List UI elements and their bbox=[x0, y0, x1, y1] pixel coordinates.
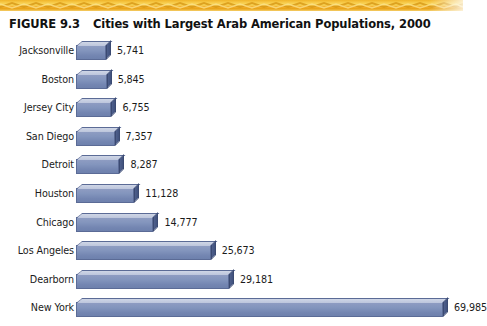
bar-chicago bbox=[76, 213, 153, 232]
bar-chart: Jacksonville5,741Boston5,845Jersey City6… bbox=[0, 36, 463, 326]
value-label-jersey-city: 6,755 bbox=[122, 95, 149, 121]
value-label-los-angeles: 25,673 bbox=[222, 238, 255, 264]
bar-detroit bbox=[76, 155, 119, 174]
category-label-detroit: Detroit bbox=[0, 152, 74, 178]
category-label-new-york: New York bbox=[0, 295, 74, 321]
bar-top-face bbox=[76, 241, 217, 246]
chart-row: New York69,985 bbox=[0, 295, 463, 321]
bar-jacksonville bbox=[76, 41, 106, 60]
bar-side-face bbox=[111, 97, 116, 117]
figure-number: FIGURE 9.3 bbox=[9, 17, 80, 31]
value-label-new-york: 69,985 bbox=[454, 295, 487, 321]
chart-row: San Diego7,357 bbox=[0, 124, 463, 150]
bar-side-face bbox=[115, 126, 120, 146]
bar-top-face bbox=[76, 184, 141, 189]
chart-row: Dearborn29,181 bbox=[0, 267, 463, 293]
category-label-los-angeles: Los Angeles bbox=[0, 238, 74, 264]
value-label-jacksonville: 5,741 bbox=[117, 38, 144, 64]
bar-front-face bbox=[76, 188, 134, 203]
category-label-dearborn: Dearborn bbox=[0, 267, 74, 293]
bar-dearborn bbox=[76, 270, 229, 289]
bar-top-face bbox=[76, 270, 235, 275]
chart-row: Jacksonville5,741 bbox=[0, 38, 463, 64]
bar-front-face bbox=[76, 217, 153, 232]
bar-side-face bbox=[211, 240, 216, 260]
page-title: Cities with Largest Arab American Popula… bbox=[93, 17, 431, 31]
chart-row: Chicago14,777 bbox=[0, 210, 463, 236]
value-label-chicago: 14,777 bbox=[164, 210, 197, 236]
bar-front-face bbox=[76, 245, 211, 260]
bar-side-face bbox=[153, 212, 158, 232]
bar-front-face bbox=[76, 102, 111, 117]
bar-side-face bbox=[134, 183, 139, 203]
chart-row: Houston11,128 bbox=[0, 181, 463, 207]
bar-los-angeles bbox=[76, 241, 211, 260]
bar-new-york bbox=[76, 298, 443, 317]
figure-caption: FIGURE 9.3 Cities with Largest Arab Amer… bbox=[0, 14, 463, 34]
category-label-jersey-city: Jersey City bbox=[0, 95, 74, 121]
category-label-houston: Houston bbox=[0, 181, 74, 207]
value-label-houston: 11,128 bbox=[145, 181, 178, 207]
bar-top-face bbox=[76, 213, 160, 218]
chart-row: Detroit8,287 bbox=[0, 152, 463, 178]
value-label-boston: 5,845 bbox=[118, 67, 145, 93]
category-label-jacksonville: Jacksonville bbox=[0, 38, 74, 64]
bar-boston bbox=[76, 70, 107, 89]
category-label-san-diego: San Diego bbox=[0, 124, 74, 150]
bar-front-face bbox=[76, 45, 106, 60]
zigzag-pattern-icon bbox=[0, 1, 463, 10]
bar-front-face bbox=[76, 274, 229, 289]
bar-side-face bbox=[119, 154, 124, 174]
value-label-dearborn: 29,181 bbox=[240, 267, 273, 293]
bar-front-face bbox=[76, 302, 443, 317]
bar-front-face bbox=[76, 74, 107, 89]
category-label-chicago: Chicago bbox=[0, 210, 74, 236]
bar-front-face bbox=[76, 159, 119, 174]
chart-row: Los Angeles25,673 bbox=[0, 238, 463, 264]
bar-jersey-city bbox=[76, 98, 111, 117]
bar-san-diego bbox=[76, 127, 115, 146]
band-corner-fade bbox=[429, 0, 463, 11]
chart-row: Boston5,845 bbox=[0, 67, 463, 93]
value-label-san-diego: 7,357 bbox=[126, 124, 153, 150]
chart-row: Jersey City6,755 bbox=[0, 95, 463, 121]
bar-houston bbox=[76, 184, 134, 203]
bar-side-face bbox=[443, 297, 448, 317]
value-label-detroit: 8,287 bbox=[130, 152, 157, 178]
category-label-boston: Boston bbox=[0, 67, 74, 93]
bar-top-face bbox=[76, 298, 449, 303]
bar-side-face bbox=[106, 40, 111, 60]
bar-side-face bbox=[229, 269, 234, 289]
bar-front-face bbox=[76, 131, 115, 146]
decorative-zigzag-band bbox=[0, 0, 463, 11]
